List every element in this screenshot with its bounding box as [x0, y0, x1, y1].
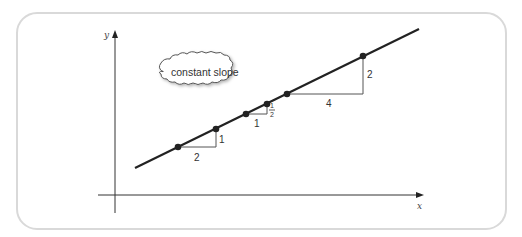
rise-label: 2	[367, 69, 373, 80]
run-label: 4	[326, 98, 332, 109]
y-axis-label: y	[103, 30, 110, 40]
point-marker	[243, 111, 250, 118]
slope-diagram: y x constant slope 2 1 1 1 2 4 2	[0, 0, 522, 237]
point-marker	[175, 144, 182, 151]
point-marker	[264, 101, 271, 108]
callout-text: constant slope	[171, 66, 239, 78]
run-label: 1	[254, 118, 260, 129]
rise-label-numerator: 1	[270, 102, 274, 109]
point-marker	[213, 126, 220, 133]
point-marker	[284, 91, 291, 98]
diagram-frame	[17, 13, 506, 229]
run-label: 2	[194, 152, 200, 163]
point-marker	[360, 53, 367, 60]
rise-label-denominator: 2	[270, 111, 274, 118]
x-axis-label: x	[417, 201, 422, 211]
rise-label: 1	[219, 134, 225, 145]
